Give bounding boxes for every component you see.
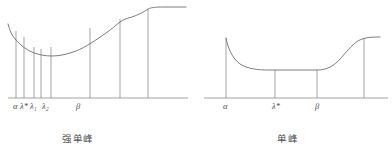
figure-caption-strong-unimodal: 强单峰 xyxy=(62,131,94,145)
function-curve xyxy=(8,7,186,56)
function-curve xyxy=(226,37,380,70)
axis-tick-label: λ₁ xyxy=(30,101,37,111)
axis-tick-label: α xyxy=(223,101,227,111)
axis-tick-label: β xyxy=(76,101,80,111)
axis-tick-label: λ₂ xyxy=(42,101,49,111)
axis-tick-label: α xyxy=(13,101,17,111)
axis-tick-label: β xyxy=(315,101,319,111)
figure-caption-unimodal: 单峰 xyxy=(277,131,298,145)
figure-canvas xyxy=(0,0,392,154)
figure-unimodal xyxy=(204,37,388,98)
axis-tick-label: λ* xyxy=(272,101,280,111)
axis-tick-label: λ* xyxy=(20,101,28,111)
figure-strong-unimodal xyxy=(8,7,188,98)
